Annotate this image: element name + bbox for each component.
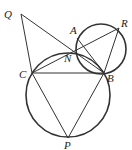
segment-cp (32, 73, 68, 138)
label-b: B (107, 72, 114, 84)
label-q: Q (4, 8, 12, 20)
label-n: N (63, 52, 72, 64)
circle-abr (76, 24, 126, 74)
segment-qc (21, 14, 32, 73)
segment-qb (21, 14, 104, 73)
geometry-figure: Q A R N C B P (0, 0, 132, 150)
label-c: C (19, 68, 27, 80)
label-p: P (63, 139, 71, 150)
label-a: A (69, 24, 77, 36)
label-r: R (120, 17, 128, 29)
segment-bp (68, 73, 104, 138)
diagram-canvas: Q A R N C B P (0, 0, 132, 150)
circle-cbp (26, 53, 110, 137)
